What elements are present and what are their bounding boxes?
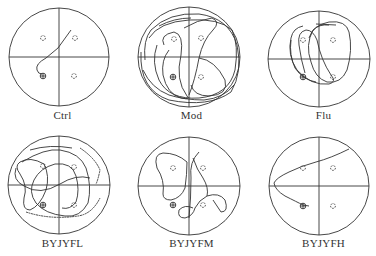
swim-path xyxy=(80,148,100,184)
platform-icon xyxy=(40,202,46,208)
swim-path xyxy=(37,30,71,74)
panel-label: Ctrl xyxy=(0,109,125,121)
panel-byjyfh: BYJYFH xyxy=(261,128,376,256)
start-marker-icon xyxy=(171,166,176,171)
panel-flu: Flu xyxy=(261,0,376,128)
swim-path xyxy=(207,195,226,212)
start-marker-icon xyxy=(331,38,336,43)
start-marker-icon xyxy=(72,74,77,79)
start-marker-icon xyxy=(73,36,78,41)
start-marker-icon xyxy=(201,203,206,208)
panel-label: Mod xyxy=(129,109,254,121)
panel-byjyfl: BYJYFL xyxy=(0,128,125,256)
start-marker-icon xyxy=(201,166,206,171)
swim-path-diagram xyxy=(129,128,254,238)
swim-path xyxy=(15,168,90,191)
swim-path xyxy=(191,58,226,96)
start-marker-icon xyxy=(199,75,204,80)
panel-mod: Mod xyxy=(129,0,254,128)
swim-path xyxy=(290,26,334,84)
swim-path-diagram xyxy=(129,0,254,110)
swim-path-diagram xyxy=(0,128,125,238)
panel-label: BYJYFL xyxy=(0,237,125,249)
panel-label: BYJYFM xyxy=(129,237,254,249)
panel-byjyfm: BYJYFM xyxy=(129,128,254,256)
swim-path xyxy=(163,32,189,99)
start-marker-icon xyxy=(331,204,336,209)
start-marker-icon xyxy=(199,36,204,41)
start-marker-icon xyxy=(72,203,77,208)
start-marker-icon xyxy=(41,36,46,41)
start-marker-icon xyxy=(301,38,306,43)
start-marker-icon xyxy=(172,37,177,42)
swim-path xyxy=(30,146,72,150)
panel-ctrl: Ctrl xyxy=(0,0,125,128)
swim-path-diagram xyxy=(261,128,376,238)
swim-path-diagram xyxy=(261,0,376,110)
panel-label: BYJYFH xyxy=(261,237,376,249)
swim-path xyxy=(179,158,208,218)
platform-icon xyxy=(170,202,176,208)
swim-path-diagram xyxy=(0,0,125,110)
swim-path xyxy=(274,149,349,206)
panel-label: Flu xyxy=(261,109,376,121)
start-marker-icon xyxy=(331,166,336,171)
platform-icon xyxy=(170,74,176,80)
swim-path xyxy=(149,20,236,98)
swim-path xyxy=(156,153,187,200)
